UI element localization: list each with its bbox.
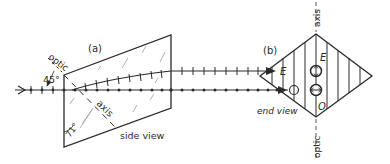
axis-label-a: axis [95,98,116,119]
panel-a-side-view: (a) side view optic axis 45° 71° E [15,35,299,147]
optic-label-b: optic [312,136,322,158]
o-polarization-symbol [311,85,322,96]
e-ray [72,71,272,90]
panel-b-end-view: (b) E O end view axis optic [257,2,372,160]
e-label-b: E [320,52,327,63]
panel-b-label: (b) [263,45,277,56]
angle-71-label: 71° [63,121,80,139]
axis-label-b: axis [312,9,322,27]
panel-a-label: (a) [88,43,102,54]
o-label-b: O [318,101,326,112]
optic-label-a: optic [47,52,71,74]
diagram-canvas: (a) side view optic axis 45° 71° E [0,0,390,164]
angle-45-label: 45° [43,74,60,85]
side-view-caption: side view [120,130,165,141]
end-view-caption: end view [257,106,298,116]
e-polarization-symbol [311,66,322,77]
